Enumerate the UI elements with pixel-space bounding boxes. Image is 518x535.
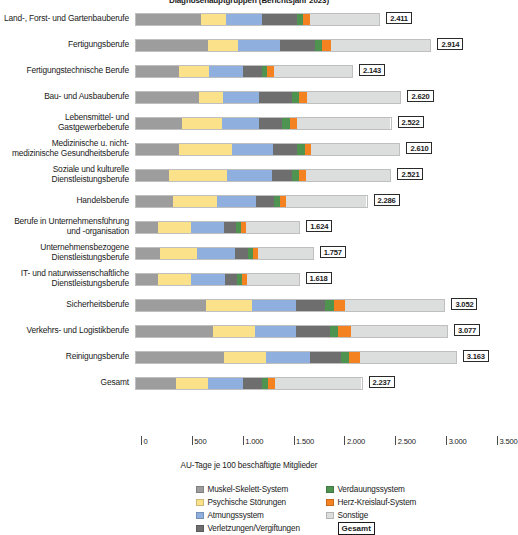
bar-segment-herz-kreislauf-system[interactable]	[299, 92, 307, 103]
stacked-bar[interactable]	[135, 273, 300, 286]
bar-segment-verletzungen-vergiftungen[interactable]	[235, 248, 248, 259]
bar-segment-psychische-st-rungen[interactable]	[173, 196, 216, 207]
bar-segment-atmungssystem[interactable]	[227, 170, 272, 181]
legend-item[interactable]: Psychische Störungen	[196, 496, 322, 509]
bar-segment-verdauungssystem[interactable]	[315, 40, 322, 51]
bar-segment-herz-kreislauf-system[interactable]	[334, 300, 346, 311]
bar-segment-muskel-skelett-system[interactable]	[136, 196, 173, 207]
bar-segment-atmungssystem[interactable]	[252, 300, 295, 311]
legend-item[interactable]: Herz-Kreislauf-System	[326, 496, 476, 509]
bar-segment-verdauungssystem[interactable]	[292, 170, 299, 181]
bar-segment-sonstige[interactable]	[246, 222, 299, 233]
bar-segment-verletzungen-vergiftungen[interactable]	[262, 14, 297, 25]
bar-segment-atmungssystem[interactable]	[238, 40, 280, 51]
bar-segment-verletzungen-vergiftungen[interactable]	[280, 40, 314, 51]
bar-segment-muskel-skelett-system[interactable]	[136, 40, 208, 51]
bar-segment-muskel-skelett-system[interactable]	[136, 274, 158, 285]
bar-segment-verdauungssystem[interactable]	[282, 118, 290, 129]
bar-segment-muskel-skelett-system[interactable]	[136, 248, 160, 259]
bar-segment-sonstige[interactable]	[286, 196, 366, 207]
bar-segment-sonstige[interactable]	[331, 40, 430, 51]
bar-segment-verletzungen-vergiftungen[interactable]	[243, 378, 262, 389]
bar-segment-muskel-skelett-system[interactable]	[136, 92, 199, 103]
bar-segment-atmungssystem[interactable]	[266, 352, 309, 363]
bar-segment-verletzungen-vergiftungen[interactable]	[310, 352, 341, 363]
bar-segment-herz-kreislauf-system[interactable]	[338, 326, 351, 337]
bar-segment-sonstige[interactable]	[275, 378, 362, 389]
bar-segment-psychische-st-rungen[interactable]	[182, 118, 221, 129]
bar-segment-atmungssystem[interactable]	[209, 66, 243, 77]
bar-segment-verdauungssystem[interactable]	[330, 326, 338, 337]
bar-segment-muskel-skelett-system[interactable]	[136, 326, 213, 337]
legend-item[interactable]: Verletzungen/Vergiftungen	[196, 522, 322, 535]
bar-segment-verletzungen-vergiftungen[interactable]	[256, 196, 274, 207]
bar-segment-verletzungen-vergiftungen[interactable]	[259, 118, 282, 129]
bar-segment-atmungssystem[interactable]	[217, 196, 256, 207]
bar-segment-psychische-st-rungen[interactable]	[199, 92, 223, 103]
bar-segment-verletzungen-vergiftungen[interactable]	[272, 170, 292, 181]
stacked-bar[interactable]	[135, 195, 368, 208]
bar-segment-atmungssystem[interactable]	[223, 92, 259, 103]
bar-segment-herz-kreislauf-system[interactable]	[290, 118, 298, 129]
stacked-bar[interactable]	[135, 299, 445, 312]
legend-item[interactable]: Sonstige	[326, 509, 476, 522]
stacked-bar[interactable]	[135, 325, 448, 338]
bar-segment-verletzungen-vergiftungen[interactable]	[224, 222, 236, 233]
bar-segment-atmungssystem[interactable]	[222, 118, 259, 129]
bar-segment-psychische-st-rungen[interactable]	[179, 144, 231, 155]
bar-segment-psychische-st-rungen[interactable]	[158, 274, 191, 285]
bar-segment-verletzungen-vergiftungen[interactable]	[225, 274, 237, 285]
bar-segment-muskel-skelett-system[interactable]	[136, 14, 201, 25]
stacked-bar[interactable]	[135, 143, 400, 156]
bar-segment-sonstige[interactable]	[351, 326, 447, 337]
bar-segment-muskel-skelett-system[interactable]	[136, 66, 179, 77]
bar-segment-sonstige[interactable]	[297, 118, 390, 129]
bar-segment-sonstige[interactable]	[307, 92, 400, 103]
bar-segment-psychische-st-rungen[interactable]	[169, 170, 227, 181]
bar-segment-atmungssystem[interactable]	[208, 378, 243, 389]
stacked-bar[interactable]	[135, 169, 391, 182]
bar-segment-herz-kreislauf-system[interactable]	[322, 40, 332, 51]
legend-item[interactable]: Verdauungssystem	[326, 483, 476, 496]
bar-segment-psychische-st-rungen[interactable]	[160, 248, 197, 259]
bar-segment-psychische-st-rungen[interactable]	[201, 14, 226, 25]
bar-segment-muskel-skelett-system[interactable]	[136, 300, 206, 311]
bar-segment-atmungssystem[interactable]	[232, 144, 273, 155]
bar-segment-psychische-st-rungen[interactable]	[213, 326, 255, 337]
bar-segment-sonstige[interactable]	[311, 144, 399, 155]
stacked-bar[interactable]	[135, 221, 300, 234]
bar-segment-psychische-st-rungen[interactable]	[179, 66, 208, 77]
bar-segment-psychische-st-rungen[interactable]	[224, 352, 266, 363]
bar-segment-sonstige[interactable]	[274, 66, 352, 77]
bar-segment-muskel-skelett-system[interactable]	[136, 170, 169, 181]
bar-segment-atmungssystem[interactable]	[226, 14, 262, 25]
bar-segment-herz-kreislauf-system[interactable]	[349, 352, 360, 363]
bar-segment-psychische-st-rungen[interactable]	[208, 40, 238, 51]
bar-segment-verletzungen-vergiftungen[interactable]	[273, 144, 297, 155]
bar-segment-sonstige[interactable]	[310, 14, 379, 25]
legend-item[interactable]: Atmungssystem	[196, 509, 322, 522]
stacked-bar[interactable]	[135, 351, 457, 364]
bar-segment-verdauungssystem[interactable]	[297, 144, 304, 155]
bar-segment-herz-kreislauf-system[interactable]	[303, 14, 310, 25]
bar-segment-muskel-skelett-system[interactable]	[136, 352, 224, 363]
bar-segment-sonstige[interactable]	[306, 170, 391, 181]
bar-segment-verletzungen-vergiftungen[interactable]	[243, 66, 262, 77]
stacked-bar[interactable]	[135, 117, 392, 130]
stacked-bar[interactable]	[135, 377, 363, 390]
legend-item[interactable]: Muskel-Skelett-System	[196, 483, 322, 496]
bar-segment-psychische-st-rungen[interactable]	[158, 222, 191, 233]
bar-segment-verdauungssystem[interactable]	[341, 352, 349, 363]
bar-segment-sonstige[interactable]	[258, 248, 313, 259]
bar-segment-muskel-skelett-system[interactable]	[136, 144, 179, 155]
bar-segment-psychische-st-rungen[interactable]	[176, 378, 207, 389]
bar-segment-muskel-skelett-system[interactable]	[136, 118, 182, 129]
bar-segment-atmungssystem[interactable]	[191, 274, 225, 285]
bar-segment-sonstige[interactable]	[345, 300, 444, 311]
bar-segment-atmungssystem[interactable]	[197, 248, 234, 259]
bar-segment-muskel-skelett-system[interactable]	[136, 222, 158, 233]
bar-segment-verletzungen-vergiftungen[interactable]	[296, 300, 325, 311]
bar-segment-muskel-skelett-system[interactable]	[136, 378, 176, 389]
bar-segment-atmungssystem[interactable]	[255, 326, 295, 337]
stacked-bar[interactable]	[135, 39, 431, 52]
